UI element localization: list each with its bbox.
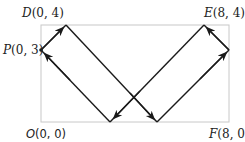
arrow-icon <box>130 93 152 117</box>
label-f: F(8, 0) <box>208 127 245 141</box>
arrow-icon <box>41 30 61 50</box>
arrow-icon <box>116 91 140 116</box>
rectangle-frame <box>41 25 229 122</box>
arrow-icon <box>200 55 224 79</box>
billiard-diagram: D(0, 4) P(0, 3) E(8, 4) O(0, 0) F(8, 0) <box>0 0 245 142</box>
label-e: E(8, 4) <box>203 6 245 20</box>
label-d: D(0, 4) <box>21 6 64 20</box>
arrow-icon <box>209 30 229 50</box>
reflection-path <box>41 25 229 122</box>
arrow-icon <box>47 56 70 80</box>
label-p: P(0, 3) <box>2 43 43 57</box>
label-o: O(0, 0) <box>26 127 66 141</box>
